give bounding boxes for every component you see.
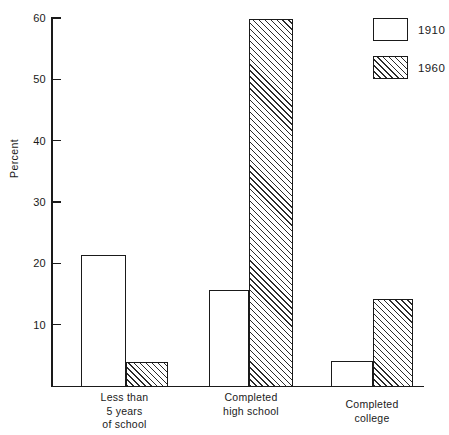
legend-item-1960[interactable]: 1960 [373,56,445,79]
y-tick-label-wrap-10: 10 [14,319,46,331]
y-tick-20 [53,263,61,264]
y-tick-30 [53,201,61,202]
bar-chart: Percent 605040302010 Less than 5 years o… [0,0,449,435]
y-tick-label-10: 10 [20,319,46,331]
bar-group-3-series-1910[interactable] [331,361,373,387]
y-tick-label-wrap-50: 50 [14,73,46,85]
y-tick-label-40: 40 [20,135,46,147]
y-tick-label-20: 20 [20,257,46,269]
y-tick-label-wrap-30: 30 [14,196,46,208]
bar-group-2-series-1960[interactable] [249,19,293,387]
legend-swatch-hatched [373,56,408,79]
y-tick-10 [53,324,61,325]
legend-item-1910[interactable]: 1910 [373,18,445,41]
category-label-1: Less than 5 years of school [65,391,185,432]
y-tick-label-50: 50 [20,73,46,85]
y-tick-label-wrap-40: 40 [14,135,46,147]
y-tick-label-60: 60 [20,12,46,24]
y-tick-40 [53,140,61,141]
y-tick-60 [53,17,61,18]
bar-group-1-series-1960[interactable] [126,362,168,387]
legend-swatch-solid [373,18,408,41]
bar-group-1-series-1910[interactable] [81,255,126,387]
category-label-3: Completed college [312,398,432,425]
legend-label-1960: 1960 [418,62,445,74]
y-tick-label-30: 30 [20,196,46,208]
y-tick-label-wrap-60: 60 [14,12,46,24]
bar-group-3-series-1960[interactable] [373,299,413,387]
legend-label-1910: 1910 [418,24,445,36]
y-tick-50 [53,79,61,80]
bar-group-2-series-1910[interactable] [209,290,249,387]
y-tick-label-wrap-20: 20 [14,257,46,269]
category-label-2: Completed high school [191,391,311,418]
